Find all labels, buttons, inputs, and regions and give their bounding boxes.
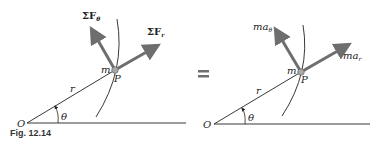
radius-label: r	[256, 85, 262, 96]
free-body-diagram: O r θ m P ΣFθ ΣFr Fig. 12.14 O r θ m P m…	[0, 0, 386, 145]
accel-r-label: mar	[343, 50, 362, 62]
angle-label: θ	[248, 112, 254, 123]
force-r-label: ΣFr	[147, 26, 165, 38]
left-panel-forces: O r θ m P ΣFθ ΣFr	[17, 10, 186, 129]
force-theta-label: ΣFθ	[82, 10, 100, 22]
point-label: P	[113, 73, 121, 84]
equals-sign	[198, 70, 209, 78]
angle-label: θ	[61, 111, 67, 122]
mass-label: m	[101, 64, 110, 75]
force-r-arrow	[115, 46, 157, 70]
origin-label: O	[203, 119, 211, 130]
radial-line	[214, 72, 301, 124]
accel-theta-label: maθ	[253, 21, 272, 33]
figure-caption: Fig. 12.14	[10, 128, 51, 138]
radial-line	[27, 70, 115, 123]
point-label: P	[300, 74, 308, 85]
mass-label: m	[287, 65, 296, 76]
accel-r-arrow	[301, 45, 348, 72]
angle-arc	[55, 106, 58, 123]
radius-label: r	[70, 83, 76, 94]
right-panel-accelerations: O r θ m P maθ mar	[203, 21, 370, 130]
angle-arc	[242, 108, 245, 124]
